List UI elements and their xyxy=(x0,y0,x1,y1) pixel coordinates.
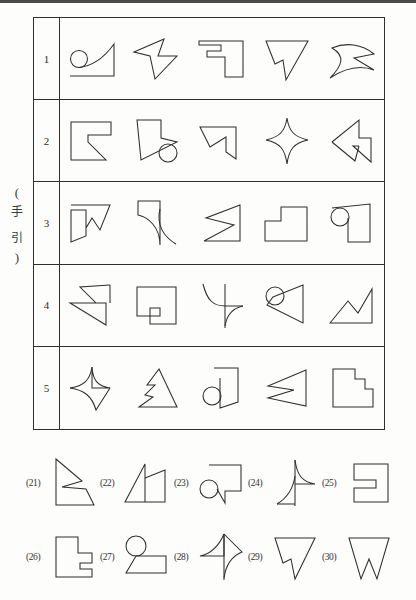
question-number: (29) xyxy=(248,552,268,562)
figure-cell[interactable] xyxy=(257,27,317,91)
figure-cell[interactable] xyxy=(322,27,382,91)
figure-cell[interactable] xyxy=(322,191,382,255)
guide-caption-open-paren: ( xyxy=(15,186,19,199)
figure-cell[interactable] xyxy=(192,356,252,420)
figure-cell[interactable] xyxy=(62,191,122,255)
table-row: 5 xyxy=(34,347,384,429)
question-number: (22) xyxy=(100,478,120,488)
figure-cell[interactable] xyxy=(62,356,122,420)
figure-cell[interactable] xyxy=(257,356,317,420)
figure-cell[interactable] xyxy=(127,109,187,173)
question-figure[interactable] xyxy=(342,526,396,588)
guide-caption-close-paren: ) xyxy=(15,251,19,264)
row-figures xyxy=(60,100,384,181)
table-row: 3 xyxy=(34,182,384,264)
row-figures xyxy=(60,265,384,346)
row-number: 4 xyxy=(34,265,60,346)
figure-cell[interactable] xyxy=(62,109,122,173)
page-top-edge xyxy=(0,0,416,3)
guide-table: 1 2 xyxy=(33,17,385,430)
question-figure[interactable] xyxy=(194,526,248,588)
question-number: (30) xyxy=(322,552,342,562)
figure-cell[interactable] xyxy=(127,27,187,91)
question-figure[interactable] xyxy=(46,452,100,514)
row-number: 5 xyxy=(34,347,60,429)
figure-cell[interactable] xyxy=(192,273,252,337)
question-number: (21) xyxy=(26,478,46,488)
question-number: (26) xyxy=(26,552,46,562)
row-figures xyxy=(60,18,384,99)
guide-caption: ( 手 引 ) xyxy=(4,186,30,264)
question-figure[interactable] xyxy=(194,452,248,514)
question-figures: (21) (22) (23) (24) (25) xyxy=(0,446,416,594)
question-number: (23) xyxy=(174,478,194,488)
question-number: (24) xyxy=(248,478,268,488)
question-item[interactable]: (23) xyxy=(174,452,248,514)
question-item[interactable]: (22) xyxy=(100,452,174,514)
table-row: 4 xyxy=(34,265,384,347)
question-item[interactable]: (25) xyxy=(322,452,396,514)
question-item[interactable]: (29) xyxy=(248,526,322,588)
question-number: (28) xyxy=(174,552,194,562)
figure-cell[interactable] xyxy=(322,356,382,420)
question-figure[interactable] xyxy=(268,526,322,588)
figure-cell[interactable] xyxy=(257,109,317,173)
row-number: 3 xyxy=(34,182,60,263)
row-figures xyxy=(60,347,384,429)
question-item[interactable]: (24) xyxy=(248,452,322,514)
question-figure[interactable] xyxy=(120,526,174,588)
row-figures xyxy=(60,182,384,263)
figure-cell[interactable] xyxy=(257,191,317,255)
question-item[interactable]: (21) xyxy=(26,452,100,514)
figure-cell[interactable] xyxy=(127,273,187,337)
figure-cell[interactable] xyxy=(127,191,187,255)
question-row: (26) (27) (28) (29) (30) xyxy=(0,520,416,594)
guide-caption-char-1: 手 xyxy=(11,206,23,218)
figure-cell[interactable] xyxy=(257,273,317,337)
question-row: (21) (22) (23) (24) (25) xyxy=(0,446,416,520)
figure-cell[interactable] xyxy=(322,273,382,337)
question-figure[interactable] xyxy=(120,452,174,514)
figure-cell[interactable] xyxy=(62,273,122,337)
question-item[interactable]: (28) xyxy=(174,526,248,588)
worksheet-page: ( 手 引 ) 1 2 xyxy=(0,0,416,600)
guide-caption-char-2: 引 xyxy=(11,232,23,244)
figure-cell[interactable] xyxy=(192,191,252,255)
question-figure[interactable] xyxy=(342,452,396,514)
table-row: 2 xyxy=(34,100,384,182)
row-number: 1 xyxy=(34,18,60,99)
question-item[interactable]: (27) xyxy=(100,526,174,588)
question-figure[interactable] xyxy=(268,452,322,514)
figure-cell[interactable] xyxy=(192,109,252,173)
question-number: (25) xyxy=(322,478,342,488)
table-row: 1 xyxy=(34,18,384,100)
figure-cell[interactable] xyxy=(192,27,252,91)
row-number: 2 xyxy=(34,100,60,181)
question-item[interactable]: (30) xyxy=(322,526,396,588)
question-number: (27) xyxy=(100,552,120,562)
figure-cell[interactable] xyxy=(62,27,122,91)
figure-cell[interactable] xyxy=(127,356,187,420)
question-figure[interactable] xyxy=(46,526,100,588)
question-item[interactable]: (26) xyxy=(26,526,100,588)
figure-cell[interactable] xyxy=(322,109,382,173)
